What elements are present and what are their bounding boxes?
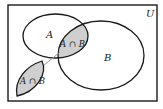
intersection-label: A ∩ B: [59, 39, 85, 49]
universe-label: U: [146, 8, 155, 19]
venn-diagram: U A B A ∩ B A ∩ B: [0, 0, 163, 109]
set-a-label: A: [45, 29, 53, 40]
callout-label: A ∩ B: [19, 76, 45, 86]
set-b-label: B: [103, 52, 111, 63]
